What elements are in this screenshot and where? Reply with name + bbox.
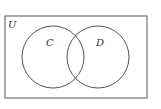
set-d-circle [67, 26, 129, 88]
universe-rectangle [5, 16, 147, 98]
set-d-label: D [95, 37, 104, 48]
set-c-label: C [46, 37, 54, 48]
universe-label: U [8, 19, 17, 30]
set-c-circle [22, 26, 84, 88]
venn-diagram: U C D [0, 0, 161, 109]
